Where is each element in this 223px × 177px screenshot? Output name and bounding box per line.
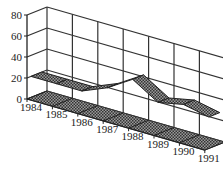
y-tick-label: 20 — [11, 72, 23, 84]
y-tick-label: 40 — [11, 51, 23, 63]
gridline-side — [27, 28, 47, 36]
gridline-side — [27, 49, 47, 57]
x-tick-label: 1986 — [71, 116, 94, 128]
x-tick-label: 1985 — [45, 108, 68, 120]
gridline-horizontal — [47, 28, 223, 79]
y-tick-label: 80 — [11, 9, 23, 21]
3d-ribbon-chart: 020406080 198419851986198719881989199019… — [0, 0, 223, 177]
x-tick-label: 1989 — [147, 138, 170, 150]
gridline-horizontal — [47, 7, 223, 58]
x-tick-label: 1991 — [198, 152, 220, 164]
gridline-side — [27, 7, 47, 15]
y-tick-label: 60 — [11, 30, 23, 42]
x-tick-label: 1988 — [122, 130, 145, 142]
x-tick-label: 1987 — [96, 123, 119, 135]
x-tick-label: 1984 — [20, 101, 43, 113]
x-tick-label: 1990 — [172, 145, 195, 157]
gridline-horizontal — [47, 49, 223, 100]
y-axis: 020406080 — [11, 9, 27, 105]
